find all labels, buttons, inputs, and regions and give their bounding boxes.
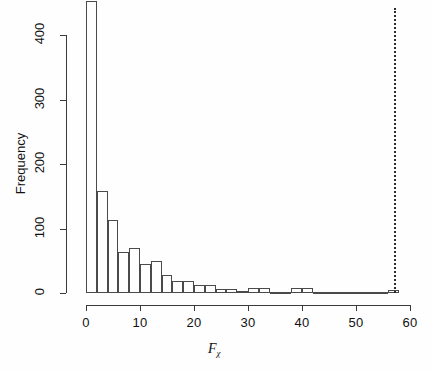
x-axis-tick-label: 20 [174, 315, 214, 330]
y-axis-tick [60, 229, 66, 230]
histogram-bar [345, 292, 356, 294]
x-axis-tick [410, 305, 411, 311]
histogram-bar [129, 248, 140, 293]
histogram-bar [151, 261, 162, 293]
histogram-bar [205, 285, 216, 293]
y-axis-tick-label: 200 [32, 146, 47, 180]
histogram-bar [291, 288, 302, 293]
x-axis-tick-label: 10 [120, 315, 160, 330]
histogram-bar [140, 264, 151, 293]
histogram-bar [259, 288, 270, 293]
y-axis-tick [60, 164, 66, 165]
y-axis-spine [66, 35, 67, 293]
x-axis-title-main: F [208, 341, 217, 356]
x-axis-tick-label: 50 [336, 315, 376, 330]
y-axis-tick-label: 400 [32, 17, 47, 51]
histogram-bar [378, 292, 389, 294]
reference-line-vertical [394, 8, 396, 293]
histogram-bar [97, 191, 108, 293]
histogram-bar [302, 288, 313, 293]
y-axis-tick-label: 100 [32, 210, 47, 244]
histogram-bar [356, 292, 367, 294]
histogram-bar [118, 252, 129, 293]
histogram-bar [270, 292, 281, 294]
y-axis-title: Frequency [13, 130, 28, 198]
histogram-bar [194, 285, 205, 293]
histogram-bar [334, 292, 345, 294]
plot-area: 0100200300400 0102030405060 Frequency Fχ [0, 0, 432, 371]
x-axis-tick-label: 30 [228, 315, 268, 330]
histogram-bar [248, 288, 259, 293]
y-axis-tick-label: 0 [32, 275, 47, 309]
y-axis-tick [60, 293, 66, 294]
x-axis-tick [356, 305, 357, 311]
x-axis-tick [140, 305, 141, 311]
histogram-bar [324, 292, 335, 294]
histogram-bar [237, 291, 248, 293]
histogram-bar [86, 1, 97, 293]
y-axis-tick [60, 100, 66, 101]
y-axis-tick [60, 35, 66, 36]
x-axis-tick [86, 305, 87, 311]
histogram-figure: 0100200300400 0102030405060 Frequency Fχ [0, 0, 432, 371]
x-axis-tick-label: 60 [390, 315, 430, 330]
x-axis-tick [302, 305, 303, 311]
histogram-bar [183, 281, 194, 293]
x-axis-tick-label: 0 [66, 315, 106, 330]
histogram-bar [367, 292, 378, 294]
histogram-bar [108, 220, 119, 293]
x-axis-tick [194, 305, 195, 311]
x-axis-title-sub: χ [217, 348, 221, 358]
histogram-bar [172, 281, 183, 293]
x-axis-title: Fχ [208, 340, 221, 358]
x-axis-tick [248, 305, 249, 311]
histogram-bar [313, 292, 324, 294]
histogram-bar [226, 289, 237, 293]
y-axis-tick-label: 300 [32, 81, 47, 115]
histogram-bar [162, 275, 173, 293]
histogram-bar [216, 289, 227, 293]
x-axis-tick-label: 40 [282, 315, 322, 330]
histogram-bar [280, 292, 291, 294]
